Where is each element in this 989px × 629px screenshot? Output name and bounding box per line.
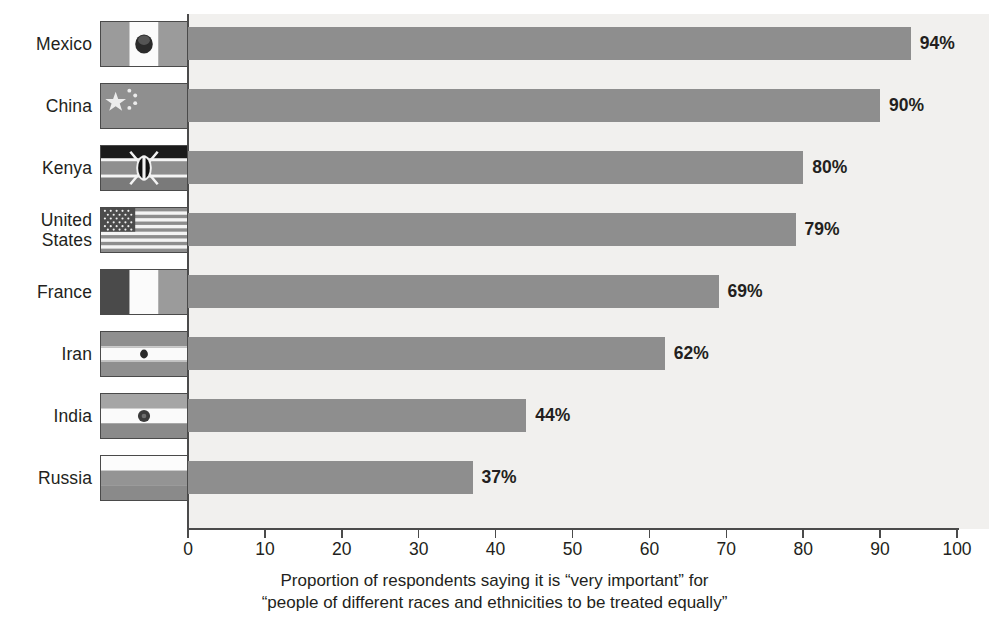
- bar: [188, 337, 665, 370]
- x-axis-tick: [879, 530, 881, 538]
- category-row: Russia: [0, 455, 188, 501]
- category-row: Kenya: [0, 145, 188, 191]
- chart-caption: Proportion of respondents saying it is “…: [0, 570, 989, 614]
- x-axis-tick-label: 70: [717, 539, 736, 560]
- flag-kenya-icon: [100, 145, 188, 191]
- category-label: Mexico: [36, 34, 100, 54]
- x-axis-tick-label: 90: [870, 539, 889, 560]
- caption-line-1: Proportion of respondents saying it is “…: [0, 570, 989, 592]
- bar-value-label: 79%: [805, 219, 840, 240]
- x-axis-tick-label: 100: [942, 539, 971, 560]
- bar-value-label: 90%: [889, 95, 924, 116]
- bar-chart: Mexico China Kenya United States: [0, 0, 989, 629]
- category-row: China: [0, 83, 188, 129]
- category-row: Iran: [0, 331, 188, 377]
- flag-china-icon: [100, 83, 188, 129]
- flag-iran-icon: [100, 331, 188, 377]
- x-axis-tick: [264, 530, 266, 538]
- x-axis-tick-label: 80: [793, 539, 812, 560]
- bar-value-label: 80%: [812, 157, 847, 178]
- x-axis-tick: [649, 530, 651, 538]
- bar-value-label: 44%: [535, 405, 570, 426]
- category-label: China: [46, 96, 100, 116]
- category-label: India: [54, 406, 100, 426]
- x-axis-tick: [495, 530, 497, 538]
- category-row: France: [0, 269, 188, 315]
- x-axis-tick-label: 30: [409, 539, 428, 560]
- bar: [188, 27, 911, 60]
- category-axis: Mexico China Kenya United States: [0, 0, 188, 529]
- bar-value-label: 69%: [728, 281, 763, 302]
- category-label: Russia: [38, 468, 100, 488]
- x-axis-tick: [418, 530, 420, 538]
- bar: [188, 89, 880, 122]
- category-row: India: [0, 393, 188, 439]
- category-label: France: [37, 282, 100, 302]
- caption-line-2: “people of different races and ethniciti…: [0, 592, 989, 614]
- x-axis-tick: [726, 530, 728, 538]
- category-label: Kenya: [42, 158, 100, 178]
- category-row: United States: [0, 207, 188, 253]
- x-axis-tick: [802, 530, 804, 538]
- x-axis-tick-label: 60: [640, 539, 659, 560]
- x-axis-tick: [341, 530, 343, 538]
- bar: [188, 399, 526, 432]
- bar: [188, 275, 719, 308]
- x-axis-tick-label: 50: [563, 539, 582, 560]
- bar: [188, 213, 796, 246]
- bar-value-label: 94%: [920, 33, 955, 54]
- flag-united-states-icon: [100, 207, 188, 253]
- flag-russia-icon: [100, 455, 188, 501]
- x-axis-tick: [956, 530, 958, 538]
- bar-value-label: 62%: [674, 343, 709, 364]
- x-axis-tick: [572, 530, 574, 538]
- flag-india-icon: [100, 393, 188, 439]
- bar: [188, 151, 803, 184]
- category-label: United States: [41, 210, 100, 250]
- x-axis-tick-label: 40: [486, 539, 505, 560]
- bar: [188, 461, 473, 494]
- category-label: Iran: [61, 344, 100, 364]
- category-row: Mexico: [0, 21, 188, 67]
- x-axis-tick-label: 20: [332, 539, 351, 560]
- flag-france-icon: [100, 269, 188, 315]
- flag-mexico-icon: [100, 21, 188, 67]
- bar-value-label: 37%: [482, 467, 517, 488]
- x-axis-tick: [187, 530, 189, 538]
- x-axis-tick-label: 0: [183, 539, 193, 560]
- x-axis-tick-label: 10: [255, 539, 274, 560]
